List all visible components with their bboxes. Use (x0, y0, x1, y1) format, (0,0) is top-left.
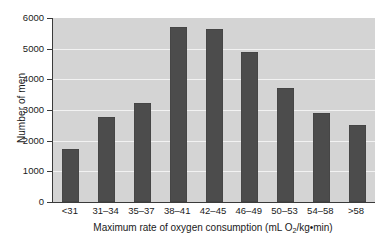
x-axis-tick-label: <31 (52, 205, 88, 217)
x-axis-tick-label: 50–53 (267, 205, 303, 217)
y-axis-tick-label: 3000 (16, 105, 44, 115)
y-axis-tick-label: 5000 (16, 44, 44, 54)
y-axis-tick-label: 1000 (16, 166, 44, 176)
bar (134, 103, 151, 202)
x-axis-tick-label: 31–34 (88, 205, 124, 217)
y-axis-tick-labels: 0100020003000400050006000 (16, 0, 44, 243)
y-axis-tick-label: 0 (16, 197, 44, 207)
bar (170, 27, 187, 202)
bar (206, 29, 223, 202)
plot-area (52, 18, 375, 203)
x-axis-tick-label: 54–58 (302, 205, 338, 217)
bar (62, 149, 79, 202)
x-axis-title-subscript: 2 (292, 227, 296, 234)
bar (98, 117, 115, 202)
bar (349, 125, 366, 202)
x-axis-tick-label: 42–45 (195, 205, 231, 217)
x-axis-tick-label: 46–49 (231, 205, 267, 217)
y-axis-tick-label: 2000 (16, 136, 44, 146)
bar-chart-figure: Number of men 0100020003000400050006000 … (0, 0, 383, 243)
x-axis-title: Maximum rate of oxygen consumption (mL O… (52, 222, 374, 237)
y-axis-tick-label: 4000 (16, 74, 44, 84)
bar-series (53, 18, 375, 202)
x-axis-tick-label: >58 (338, 205, 374, 217)
x-axis-tick-label: 38–41 (159, 205, 195, 217)
x-axis-tick-label: 35–37 (124, 205, 160, 217)
y-axis-tick-label: 6000 (16, 13, 44, 23)
bar (313, 113, 330, 202)
x-axis-tick-labels: <3131–3435–3738–4142–4546–4950–5354–58>5… (52, 205, 374, 219)
bar (277, 88, 294, 202)
bar (241, 52, 258, 202)
